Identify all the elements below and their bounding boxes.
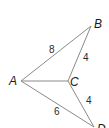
vertex-label-d: D [97,122,106,128]
vertex-label-b: B [94,17,102,31]
edge-label-ad: 6 [54,106,60,117]
vertex-label-a: A [8,74,17,88]
edge-label-ab: 8 [49,44,55,55]
edge-ad [21,81,94,127]
geometry-diagram: A B C D 8 4 4 6 [0,0,109,128]
vertex-label-c: C [70,75,79,89]
edge-ab [21,26,91,81]
edge-label-cd: 4 [86,95,92,106]
edge-label-bc: 4 [83,52,89,63]
